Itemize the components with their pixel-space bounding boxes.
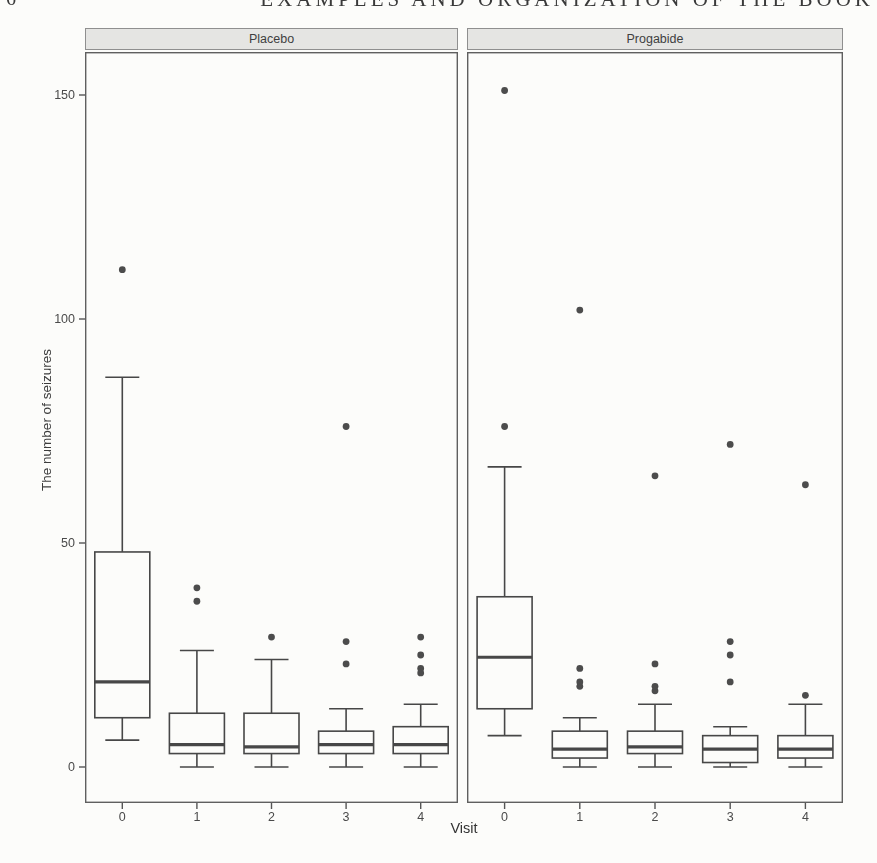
outlier-point [194, 584, 201, 591]
box-visit-2 [628, 731, 683, 753]
book-page: 6 EXAMPLES AND ORGANIZATION OF THE BOOK … [0, 0, 877, 863]
outlier-point [652, 472, 659, 479]
outlier-point [417, 634, 424, 641]
outlier-point [802, 692, 809, 699]
outlier-point [652, 661, 659, 668]
y-tick-label: 150 [43, 88, 75, 102]
outlier-point [417, 665, 424, 672]
outlier-point [417, 652, 424, 659]
outlier-point [727, 638, 734, 645]
outlier-point [119, 266, 126, 273]
boxplot-canvas [0, 0, 877, 863]
outlier-point [343, 423, 350, 430]
outlier-point [576, 307, 583, 314]
x-tick-label: 1 [565, 810, 595, 824]
outlier-point [194, 598, 201, 605]
outlier-point [576, 665, 583, 672]
outlier-point [576, 678, 583, 685]
outlier-point [802, 481, 809, 488]
y-tick-label: 100 [43, 312, 75, 326]
outlier-point [727, 441, 734, 448]
x-tick-label: 2 [257, 810, 287, 824]
x-tick-label: 0 [107, 810, 137, 824]
box-visit-1 [552, 731, 607, 758]
x-tick-label: 2 [640, 810, 670, 824]
y-tick-label: 50 [43, 536, 75, 550]
box-visit-0 [477, 597, 532, 709]
outlier-point [727, 678, 734, 685]
outlier-point [501, 423, 508, 430]
outlier-point [727, 652, 734, 659]
outlier-point [343, 661, 350, 668]
box-visit-3 [319, 731, 374, 753]
x-tick-label: 3 [715, 810, 745, 824]
outlier-point [501, 87, 508, 94]
box-visit-4 [778, 736, 833, 758]
x-tick-label: 4 [790, 810, 820, 824]
y-tick-label: 0 [43, 760, 75, 774]
box-visit-4 [393, 727, 448, 754]
outlier-point [652, 683, 659, 690]
outlier-point [268, 634, 275, 641]
box-visit-1 [169, 713, 224, 753]
x-tick-label: 4 [406, 810, 436, 824]
x-axis-title: Visit [450, 820, 477, 836]
box-visit-0 [95, 552, 150, 718]
outlier-point [343, 638, 350, 645]
x-tick-label: 3 [331, 810, 361, 824]
x-tick-label: 0 [490, 810, 520, 824]
x-tick-label: 1 [182, 810, 212, 824]
